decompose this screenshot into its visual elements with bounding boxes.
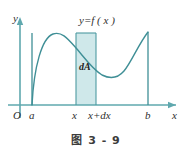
origin-label: O [13, 110, 21, 121]
tick-label-x: x [72, 110, 77, 121]
x-axis-label: x [172, 110, 177, 121]
tick-label-x-plus-dx: x+dx [88, 110, 111, 121]
tick-label-a: a [29, 110, 35, 121]
x-axis-arrow-icon [168, 102, 176, 108]
y-axis-label: y [13, 13, 18, 24]
differential-area-label: dA [79, 62, 91, 72]
figure-caption: 图 3 - 9 [0, 131, 192, 147]
tick-label-b: b [145, 110, 151, 121]
curve-label: y=f ( x ) [79, 15, 115, 26]
figure-container: y O a x x+dx b x y=f ( x ) dA 图 3 - 9 [0, 0, 192, 152]
